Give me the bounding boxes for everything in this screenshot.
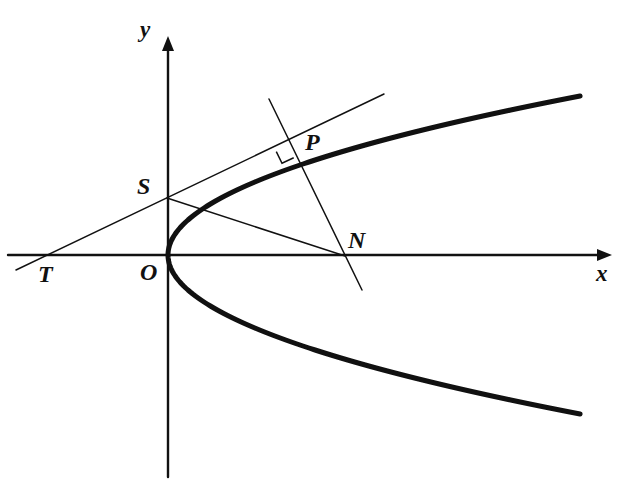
point-label-p: P xyxy=(305,130,320,154)
tangent-line xyxy=(16,94,384,270)
point-label-s: S xyxy=(137,174,150,198)
x-axis-arrowhead xyxy=(597,249,612,261)
y-axis-arrowhead xyxy=(162,36,174,51)
point-label-t: T xyxy=(38,262,53,286)
axes-group xyxy=(8,36,612,477)
normal-line xyxy=(269,99,362,290)
point-label-o: O xyxy=(140,260,157,284)
y-axis-label: y xyxy=(140,18,150,41)
segment-s-to-n xyxy=(167,198,345,256)
construction-lines-group xyxy=(16,94,384,290)
diagram-canvas xyxy=(0,0,626,492)
parabola-geometry-figure: x y T O S P N xyxy=(0,0,626,492)
point-label-n: N xyxy=(348,228,365,252)
x-axis-label: x xyxy=(596,262,608,285)
right-angle-icon xyxy=(276,152,293,164)
